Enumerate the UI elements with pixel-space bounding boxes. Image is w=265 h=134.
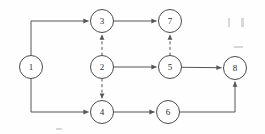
diagram-canvas: 12345678 [0,0,265,134]
scan-speck [56,128,62,130]
network-diagram-svg: 12345678 [0,0,265,134]
node-1[interactable]: 1 [20,56,43,79]
edges-layer [31,21,235,112]
node-4[interactable]: 4 [91,101,114,124]
arrowhead-e-6-8 [233,82,238,87]
arrowhead-e-5-7 [168,35,173,40]
node-5[interactable]: 5 [159,56,182,79]
arrowhead-e-3-7 [151,19,156,24]
node-label-5: 5 [168,62,173,72]
scan-speck [234,46,243,48]
arrowhead-e-1-4 [83,110,88,115]
node-7[interactable]: 7 [159,10,182,33]
scan-speck [228,18,230,27]
edge-1-to-3 [31,21,89,56]
node-label-4: 4 [100,107,105,117]
edge-6-to-8 [180,82,236,112]
arrowhead-e-1-3 [83,19,88,24]
arrowhead-e-2-3 [100,35,105,40]
scan-speck [241,18,244,27]
node-8[interactable]: 8 [224,57,247,80]
arrowhead-e-2-4 [100,93,105,98]
node-label-3: 3 [100,16,105,26]
arrowhead-e-4-6 [149,110,154,115]
node-label-7: 7 [168,16,173,26]
node-6[interactable]: 6 [157,101,180,124]
node-label-6: 6 [166,107,171,117]
arrowhead-e-5-8 [216,65,221,70]
node-2[interactable]: 2 [91,56,114,79]
node-label-1: 1 [29,62,34,72]
edge-1-to-4 [31,79,89,113]
node-label-2: 2 [100,62,105,72]
node-3[interactable]: 3 [91,10,114,33]
node-label-8: 8 [233,63,238,73]
arrowhead-e-2-5 [151,65,156,70]
